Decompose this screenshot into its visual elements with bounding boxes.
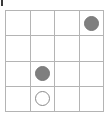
board-cell-r2c4[interactable]: [80, 36, 105, 61]
board-cell-r1c1[interactable]: [6, 11, 31, 36]
board-cell-r3c3[interactable]: [55, 62, 80, 87]
board-piece-r4c2[interactable]: [35, 91, 50, 106]
board-cell-r1c4[interactable]: [80, 11, 105, 36]
board-cell-r2c1[interactable]: [6, 36, 31, 61]
board-cell-r4c2[interactable]: [31, 87, 56, 112]
board-piece-r1c4[interactable]: [84, 16, 99, 31]
board-cell-r2c2[interactable]: [31, 36, 56, 61]
game-board-grid[interactable]: [5, 10, 104, 112]
board-cell-r4c4[interactable]: [80, 87, 105, 112]
board-cell-r3c2[interactable]: [31, 62, 56, 87]
board-cell-r3c4[interactable]: [80, 62, 105, 87]
corner-tick-mark: [1, 0, 3, 6]
board-cell-r2c3[interactable]: [55, 36, 80, 61]
board-cell-r1c2[interactable]: [31, 11, 56, 36]
board-cell-r4c3[interactable]: [55, 87, 80, 112]
board-piece-r3c2[interactable]: [35, 66, 50, 81]
board-cell-r1c3[interactable]: [55, 11, 80, 36]
board-cell-r4c1[interactable]: [6, 87, 31, 112]
board-root: [0, 0, 111, 117]
board-cell-r3c1[interactable]: [6, 62, 31, 87]
